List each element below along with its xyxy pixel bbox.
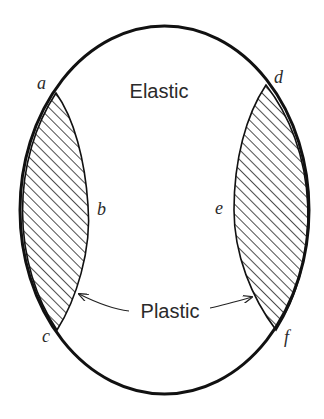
plastic-region-right: [234, 85, 308, 330]
point-label-d: d: [274, 67, 284, 87]
point-label-f: f: [284, 327, 292, 347]
plastic-region-left: [23, 93, 89, 330]
point-label-c: c: [42, 326, 50, 346]
plastic-label: Plastic: [141, 300, 200, 322]
arrow-to-right-plastic: [210, 297, 252, 308]
point-label-a: a: [37, 73, 46, 93]
elastic-label: Elastic: [130, 80, 189, 102]
point-label-b: b: [97, 199, 106, 219]
point-label-e: e: [215, 198, 223, 218]
elastic-plastic-diagram: Elastic Plastic a b c d e f: [0, 0, 324, 419]
arrow-to-left-plastic: [79, 294, 129, 311]
